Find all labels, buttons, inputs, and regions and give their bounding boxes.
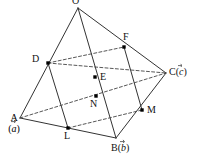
- edge-O-C: [78, 8, 166, 73]
- vertex-label-B-with-vector: B(b): [111, 143, 129, 153]
- vertex-label-C-with-vector: C(c): [169, 67, 187, 77]
- vertex-label-D: D: [32, 54, 39, 64]
- edge-D-L: [48, 63, 68, 128]
- edge-A-C: [20, 73, 166, 118]
- vertex-label-N: N: [90, 99, 97, 109]
- edge-D-C-through-E: [48, 63, 166, 73]
- vertex-label-B: B: [111, 142, 118, 153]
- vector-letter-a: a: [12, 123, 17, 134]
- vertex-label-A-with-vector: A (a): [1, 112, 27, 134]
- vertex-label-C: C: [169, 66, 176, 77]
- vector-glyph-a: a: [12, 123, 17, 134]
- point-marker-m: [140, 108, 143, 111]
- vector-glyph-c: c: [179, 67, 183, 77]
- vector-label-a: (a): [1, 123, 27, 134]
- solid-edge-group: [20, 8, 166, 138]
- vertex-label-M: M: [147, 105, 156, 115]
- vertex-label-A: A: [1, 112, 27, 123]
- edge-O-B: [78, 8, 116, 138]
- edge-F-M: [124, 47, 142, 110]
- vector-letter-c: c: [179, 66, 183, 77]
- vertex-label-F: F: [123, 32, 129, 42]
- paren-close-a: ): [17, 123, 20, 134]
- point-marker-d: [46, 61, 49, 64]
- point-marker-f: [122, 45, 125, 48]
- geometry-figure: O D E F L M N A (a) B(b) C(c): [0, 0, 198, 161]
- vector-glyph-b: b: [121, 143, 126, 153]
- point-marker-group: [46, 45, 143, 129]
- vertex-label-L: L: [64, 131, 70, 141]
- edge-D-F: [48, 47, 124, 63]
- paren-close-c: ): [183, 66, 186, 77]
- vertex-label-O: O: [72, 0, 79, 6]
- paren-close-b: ): [126, 142, 129, 153]
- vertex-label-E: E: [100, 72, 106, 82]
- vector-letter-b: b: [121, 142, 126, 153]
- point-marker-e: [93, 75, 96, 78]
- geometry-canvas: [0, 0, 198, 161]
